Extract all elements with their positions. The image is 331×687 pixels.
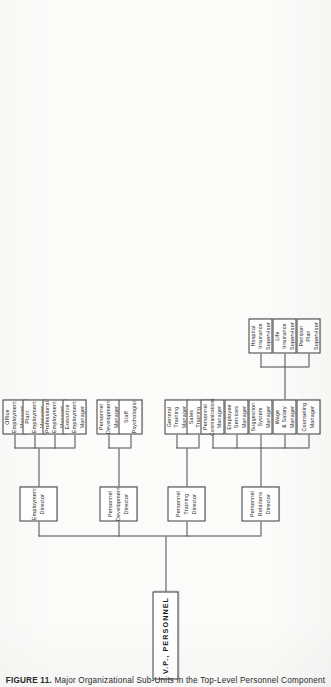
connector-training-out — [186, 448, 187, 486]
node-label-line-2: & Salary — [280, 405, 288, 427]
node-label-line-1: Personnel — [248, 490, 256, 516]
node-label-line-1: Pension — [297, 325, 305, 346]
node-label-line-1: Office — [3, 409, 11, 424]
connector-employment-out — [38, 448, 39, 486]
node-label-line-1: Counseling — [300, 402, 308, 431]
node-employment-director[interactable]: Employment Director — [19, 486, 57, 521]
node-staff-psychologist[interactable]: Staff Psychologist — [118, 399, 142, 434]
node-label-line-1: Hospital — [249, 325, 257, 346]
connector-level2-spine — [38, 535, 260, 536]
connector-spine-to-relations — [260, 521, 261, 536]
node-label-line-2: Development — [114, 487, 122, 521]
connector-development-out — [118, 448, 119, 486]
node-label-line-3: Supervisor — [312, 322, 320, 350]
node-label: V.P., PERSONNEL — [160, 596, 170, 673]
node-executive-employment-manager[interactable]: Executive Employment Manager — [62, 399, 86, 434]
node-pension-plan-supervisor[interactable]: Pension Plan Supervisor — [296, 318, 320, 353]
connector-employment-to-office — [14, 434, 15, 448]
node-label-line-2: Training — [172, 406, 180, 427]
node-label-line-1: Personnel — [174, 490, 182, 516]
node-label-line-2: Employment — [50, 401, 58, 433]
node-wage-and-salary-manager[interactable]: Wage & Salary Manager — [272, 399, 296, 434]
node-label-line-2: Employment — [30, 401, 38, 433]
node-label-line-3: Supervisor — [264, 322, 272, 350]
connector-training-to-sales — [198, 434, 199, 448]
scanned-page: V.P., PERSONNEL Employment Director Pers… — [0, 0, 331, 687]
connector-development-spine — [108, 447, 130, 448]
connector-employment-spine — [14, 447, 74, 448]
node-vp-personnel[interactable]: V.P., PERSONNEL — [152, 591, 178, 679]
node-label-line-3: Manager — [264, 405, 272, 428]
node-personnel-relations-director[interactable]: Personnel Relations Director — [241, 486, 279, 521]
connector-wage-to-life — [284, 353, 285, 367]
figure-caption: FIGURE 11. Major Organizational Sub-Unit… — [0, 676, 331, 685]
connector-relations-out — [260, 448, 261, 486]
connector-employment-to-professional — [54, 434, 55, 448]
node-personnel-development-director[interactable]: Personnel Development Director — [99, 486, 137, 521]
node-label-line-1: Personnel — [97, 403, 105, 429]
node-label-line-1: Personnel — [106, 490, 114, 516]
node-counseling-manager[interactable]: Counseling Manager — [296, 399, 320, 434]
connector-training-spine — [176, 447, 198, 448]
node-label-line-3: Director — [122, 493, 130, 514]
node-personnel-communications-manager[interactable]: Personnel Communications Manager — [200, 399, 224, 434]
node-label-line-1: Professional — [43, 400, 51, 432]
node-label-line-3: Manager — [288, 405, 296, 428]
connector-development-to-psychologist — [130, 434, 131, 448]
node-hospital-insurance-supervisor[interactable]: Hospital Insurance Supervisor — [248, 318, 272, 353]
node-label-line-2: Plan — [304, 330, 312, 342]
node-label-line-2: Employment — [70, 401, 78, 433]
node-label-line-2: Relations — [256, 491, 264, 515]
connector-relations-to-counseling — [308, 434, 309, 448]
node-label-line-1: Sales — [187, 409, 195, 424]
node-label-line-2: Training — [182, 493, 190, 514]
node-label-line-2: Employment — [10, 401, 18, 433]
node-personnel-training-director[interactable]: Personnel Training Director — [167, 486, 205, 521]
connector-employment-to-executive — [74, 434, 75, 448]
figure-number: FIGURE 11. — [6, 676, 52, 685]
node-label-line-2: Director — [38, 493, 46, 514]
connector-relations-to-employee-services — [236, 434, 237, 448]
connector-relations-to-comms — [212, 434, 213, 448]
connector-employment-to-plant — [34, 434, 35, 448]
node-label-line-1: Employee — [225, 404, 233, 430]
node-label-line-2: Services — [232, 405, 240, 427]
node-label-line-1: Plant — [23, 410, 31, 423]
node-label-line-1: Executive — [63, 404, 71, 429]
node-label-line-3: Manager — [78, 405, 86, 428]
figure-title: Major Organizational Sub-Units in the To… — [54, 676, 325, 685]
node-label-line-3: Manager — [215, 405, 223, 428]
node-personnel-development-manager[interactable]: Personnel Development Manager — [96, 399, 120, 434]
connector-relations-to-wage — [284, 434, 285, 448]
connector-wage-out — [284, 367, 285, 399]
connector-spine-to-development — [118, 521, 119, 536]
node-label-line-2: Communications — [209, 398, 216, 436]
node-label-line-1: Personnel — [201, 403, 209, 429]
node-label-line-2: Insurance — [280, 323, 288, 349]
connector-training-to-general — [176, 434, 177, 448]
node-label-line-2: Psychologist — [130, 400, 138, 433]
node-suggestion-system-manager[interactable]: Suggestion System Manager — [248, 399, 272, 434]
node-label-line-1: Employment — [30, 488, 38, 520]
node-label-line-2: Insurance — [256, 323, 264, 349]
connector-spine-to-training — [186, 521, 187, 536]
node-label-line-2: System — [256, 407, 264, 426]
node-label-line-1: General — [165, 406, 173, 427]
node-label-line-1: Staff — [122, 410, 130, 422]
node-label-line-1: Wage — [273, 409, 281, 424]
node-label-line-3: Manager — [240, 405, 248, 428]
connector-development-to-persdev — [108, 434, 109, 448]
connector-relations-to-suggestion — [260, 434, 261, 448]
node-label-line-1: Suggestion — [249, 402, 257, 431]
node-label-line-2: Development — [104, 400, 112, 434]
node-label-line-1: Life — [273, 331, 281, 341]
connector-wage-to-hospital — [260, 353, 261, 367]
node-label-line-3: Supervisor — [288, 322, 296, 350]
node-general-training-manager[interactable]: General Training Manager — [164, 399, 188, 434]
connector-root-to-spine — [165, 536, 166, 591]
connector-spine-to-employment — [38, 521, 39, 536]
node-life-insurance-supervisor[interactable]: Life Insurance Supervisor — [272, 318, 296, 353]
node-label-line-3: Director — [190, 493, 198, 514]
node-label-line-3: Director — [264, 493, 272, 514]
node-employee-services-manager[interactable]: Employee Services Manager — [224, 399, 248, 434]
